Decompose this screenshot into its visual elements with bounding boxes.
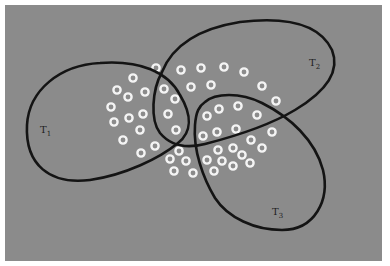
venn-diagram: [0, 0, 390, 266]
set-label-t1: T1: [40, 124, 51, 138]
set-label-t3: T3: [272, 206, 283, 220]
set-label-t2: T2: [309, 57, 320, 71]
